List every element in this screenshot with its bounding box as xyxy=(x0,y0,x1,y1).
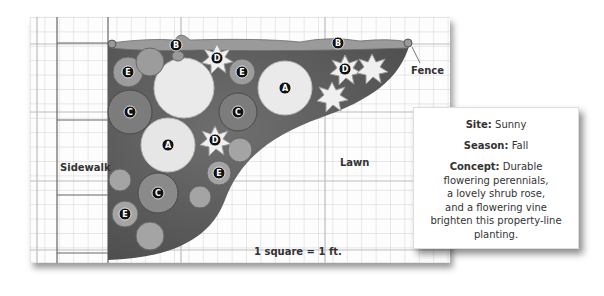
season-value: Fall xyxy=(512,140,529,151)
svg-text:C: C xyxy=(127,108,133,117)
svg-text:B: B xyxy=(335,39,341,48)
svg-text:E: E xyxy=(216,169,221,178)
svg-text:C: C xyxy=(235,108,241,117)
scale-label: 1 square = 1 ft. xyxy=(254,246,342,257)
info-card: Site: Sunny Season: Fall Concept: Durabl… xyxy=(413,107,579,249)
svg-text:D: D xyxy=(214,54,221,63)
svg-text:D: D xyxy=(212,136,219,145)
concept-text: Concept: Durable flowering perennials, a… xyxy=(414,160,578,241)
site-label: Site: xyxy=(466,119,492,130)
season-label: Season: xyxy=(464,140,509,151)
svg-text:E: E xyxy=(239,68,244,77)
lawn-label: Lawn xyxy=(340,157,369,168)
concept-label: Concept: xyxy=(450,161,500,172)
svg-text:A: A xyxy=(282,84,289,93)
svg-text:E: E xyxy=(122,210,127,219)
svg-text:C: C xyxy=(155,189,161,198)
site-value: Sunny xyxy=(495,119,526,130)
svg-text:A: A xyxy=(165,141,172,150)
svg-text:D: D xyxy=(342,65,349,74)
fence-label: Fence xyxy=(411,65,444,76)
sidewalk-label: Sidewalk xyxy=(60,162,111,173)
svg-text:E: E xyxy=(125,68,130,77)
svg-text:B: B xyxy=(173,41,179,50)
